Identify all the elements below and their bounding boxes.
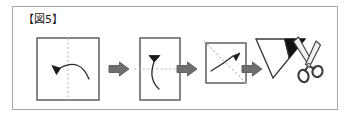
step-3-square-diagonal-fold xyxy=(203,40,245,82)
figure-diagram-stage xyxy=(13,7,339,111)
step-arrow-2 xyxy=(176,61,198,77)
step-2-rectangle-horizontal-fold xyxy=(133,37,175,101)
step-1-square-vertical-fold xyxy=(36,37,100,101)
step-4-graphic xyxy=(253,31,329,93)
arrow-right-icon xyxy=(176,61,198,77)
step-4-triangle-cut-with-scissors xyxy=(253,31,329,93)
arrow-right-icon xyxy=(108,61,130,77)
step-arrow-1 xyxy=(108,61,130,77)
step-1-graphic xyxy=(36,37,100,101)
figure-frame: 【図5】 xyxy=(12,6,338,110)
scissors-icon xyxy=(294,37,325,83)
